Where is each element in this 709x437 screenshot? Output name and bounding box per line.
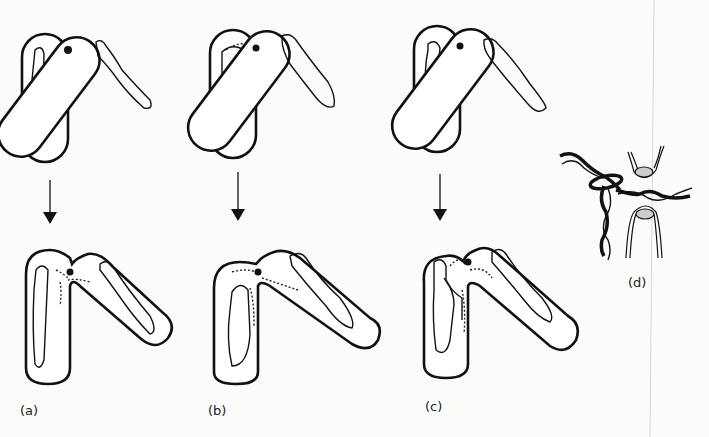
arrow-b <box>231 172 245 221</box>
panel-d-detail <box>560 146 692 260</box>
panel-label-d: (d) <box>628 275 646 290</box>
diagram-canvas <box>0 0 709 437</box>
panel-a-after <box>26 250 172 384</box>
arrow-c <box>433 174 447 221</box>
panel-a-before <box>0 28 151 166</box>
conjugation-bridge <box>64 46 72 54</box>
panel-label-a: (a) <box>20 403 38 418</box>
panel-c-after <box>424 248 578 378</box>
panel-label-b: (b) <box>208 403 226 418</box>
panel-label-c: (c) <box>425 399 442 414</box>
arrow-a <box>43 180 57 224</box>
panel-c-before <box>383 20 546 158</box>
panel-b-before <box>179 22 334 160</box>
panel-b-after <box>214 251 380 384</box>
